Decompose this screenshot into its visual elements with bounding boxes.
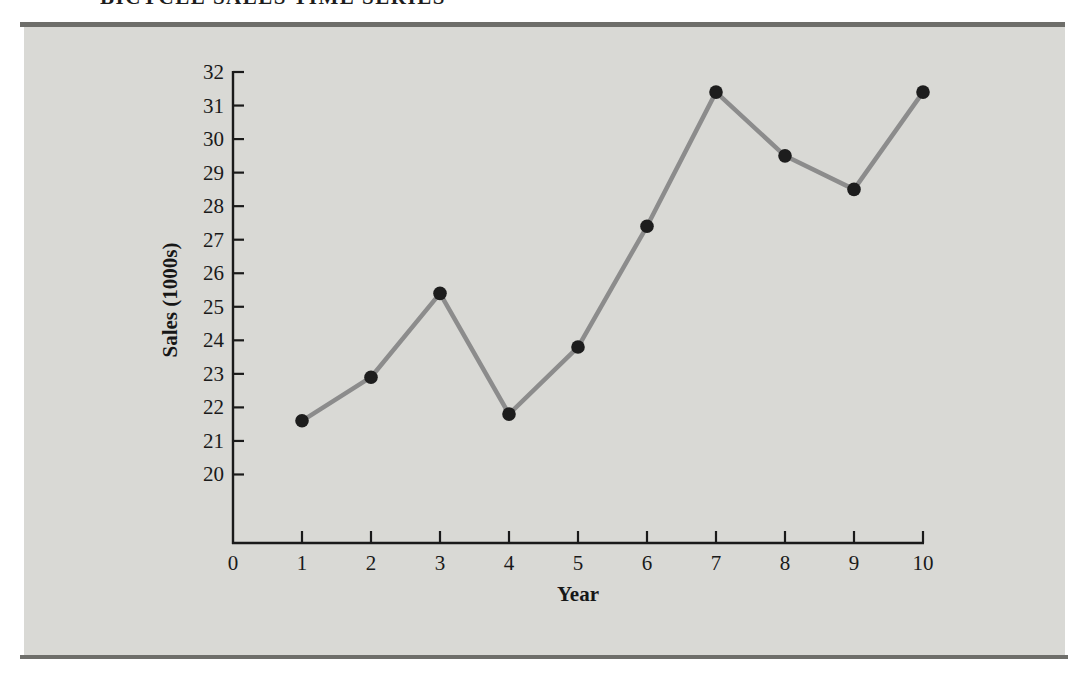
data-point-year-8	[778, 149, 792, 163]
x-tick-label: 7	[711, 551, 722, 575]
y-tick-label: 32	[203, 60, 224, 84]
data-point-year-3	[433, 287, 447, 301]
x-tick-label: 3	[435, 551, 446, 575]
series-line-sales-1000s-	[302, 92, 923, 421]
data-point-year-5	[571, 340, 585, 354]
x-tick-label: 5	[573, 551, 584, 575]
y-tick-label: 23	[203, 362, 224, 386]
data-point-year-1	[295, 414, 309, 428]
data-point-year-9	[847, 183, 861, 197]
data-point-year-6	[640, 219, 654, 233]
x-tick-label: 9	[849, 551, 860, 575]
x-tick-label: 4	[504, 551, 515, 575]
y-axis-label: Sales (1000s)	[158, 243, 183, 358]
data-point-year-10	[916, 85, 930, 99]
x-tick-label: 10	[913, 551, 934, 575]
y-tick-label: 31	[203, 94, 224, 118]
x-axis-label: Year	[557, 582, 599, 607]
y-tick-label: 29	[203, 161, 224, 185]
y-tick-label: 24	[203, 328, 225, 352]
data-point-year-2	[364, 370, 378, 384]
x-tick-label: 1	[297, 551, 308, 575]
y-tick-label: 30	[203, 127, 224, 151]
x-tick-label: 6	[642, 551, 653, 575]
y-tick-label: 26	[203, 261, 224, 285]
y-tick-label: 22	[203, 395, 224, 419]
bottom-rule-divider	[20, 655, 1068, 659]
y-tick-label: 21	[203, 429, 224, 453]
y-tick-label: 27	[203, 228, 224, 252]
x-tick-label: 2	[366, 551, 377, 575]
y-tick-label: 28	[203, 194, 224, 218]
y-tick-label: 25	[203, 295, 224, 319]
y-tick-label: 20	[203, 462, 224, 486]
data-point-year-4	[502, 407, 516, 421]
page: BICYCLE SALES TIME SERIES 20212223242526…	[0, 0, 1085, 685]
x-tick-label: 8	[780, 551, 791, 575]
x-tick-label: 0	[228, 551, 239, 575]
data-point-year-7	[709, 85, 723, 99]
